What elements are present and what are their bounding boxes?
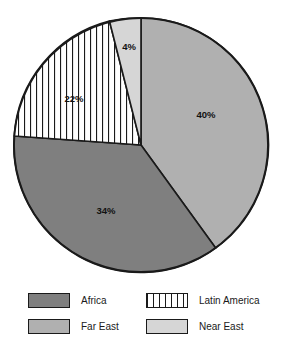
slice-label-africa: 34% bbox=[96, 205, 116, 216]
pie-chart-svg: 40% 34% 22% 4% bbox=[0, 0, 283, 283]
legend-label-latin-america: Latin America bbox=[199, 296, 260, 306]
legend-item-latin-america[interactable]: Latin America bbox=[146, 289, 260, 312]
legend-swatch-africa bbox=[28, 293, 70, 308]
legend-label-far-east: Far East bbox=[81, 322, 119, 332]
legend-swatch-far-east bbox=[28, 319, 70, 334]
chart-legend: Africa Latin America Far East Near East bbox=[28, 289, 260, 341]
legend-swatch-near-east bbox=[146, 319, 188, 334]
pie-plot-area: 40% 34% 22% 4% bbox=[0, 0, 283, 283]
legend-label-africa: Africa bbox=[81, 296, 107, 306]
legend-swatch-latin-america bbox=[146, 293, 188, 308]
legend-item-africa[interactable]: Africa bbox=[28, 289, 146, 312]
pie-chart-figure: 40% 34% 22% 4% Africa Latin America Far … bbox=[0, 0, 283, 359]
slice-label-far-east: 40% bbox=[196, 109, 216, 120]
legend-label-near-east: Near East bbox=[199, 322, 243, 332]
slice-label-latin-america: 22% bbox=[64, 93, 84, 104]
legend-item-far-east[interactable]: Far East bbox=[28, 315, 146, 338]
slice-label-near-east: 4% bbox=[122, 41, 136, 52]
legend-item-near-east[interactable]: Near East bbox=[146, 315, 260, 338]
